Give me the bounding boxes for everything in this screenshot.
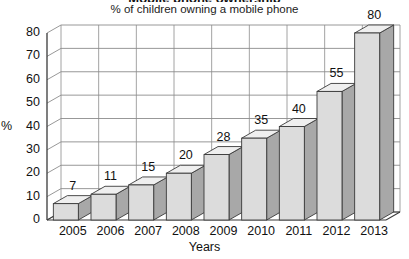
y-tick-label: 50 xyxy=(8,95,40,109)
y-tick-label: 80 xyxy=(8,25,40,39)
x-axis-title: Years xyxy=(0,240,409,254)
x-tick-label: 2013 xyxy=(348,224,401,238)
bar xyxy=(355,25,394,220)
y-tick-label: 70 xyxy=(8,48,40,62)
bar xyxy=(279,119,318,221)
y-tick-label: 0 xyxy=(8,212,40,226)
bar xyxy=(53,196,92,220)
bar-value-label: 20 xyxy=(159,148,212,162)
bar-value-label: 80 xyxy=(348,8,401,22)
bars-group xyxy=(53,25,393,220)
bar-value-label: 40 xyxy=(272,102,325,116)
y-tick-label: 60 xyxy=(8,72,40,86)
bar-chart: Mobile phone ownership % of children own… xyxy=(0,0,409,259)
y-tick-label: 20 xyxy=(8,165,40,179)
y-axis-title: % xyxy=(1,119,12,133)
bar-value-label: 55 xyxy=(310,66,363,80)
bar xyxy=(129,177,168,220)
bar xyxy=(242,130,281,220)
y-tick-label: 30 xyxy=(8,142,40,156)
y-tick-label: 10 xyxy=(8,189,40,203)
bar-value-label: 28 xyxy=(197,130,250,144)
y-tick-label: 40 xyxy=(8,119,40,133)
